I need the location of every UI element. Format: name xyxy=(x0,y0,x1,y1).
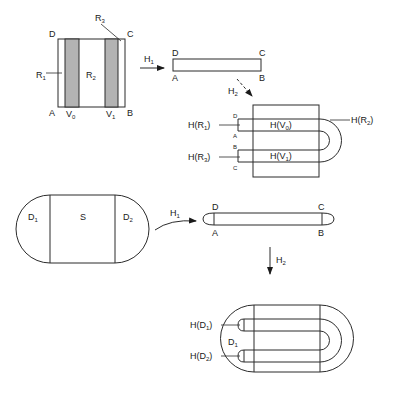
strip-v0 xyxy=(65,39,79,107)
label-h-d1: H(D1) xyxy=(190,320,212,331)
horseshoe-image-stadium: H(D1) H(D2) D1 xyxy=(190,305,354,372)
label-h-v0: H(V0) xyxy=(270,120,292,131)
corner-label-b: B xyxy=(318,228,324,238)
strip-label-v1: V1 xyxy=(106,109,116,120)
arrow-label-h2: H2 xyxy=(276,255,287,266)
corner-label-c: C xyxy=(318,202,325,212)
region-label-d1: D1 xyxy=(228,337,239,348)
square-domain: D C A B R1 R2 R3 V0 V1 xyxy=(36,13,134,120)
inner-fold-arc xyxy=(320,131,330,150)
outer-fold-arc xyxy=(320,119,342,162)
bar-outline xyxy=(173,59,261,71)
corner-label-b: B xyxy=(127,108,133,118)
stretched-bar-top: D C A B xyxy=(172,48,266,83)
arrow-label-h1: H1 xyxy=(170,208,181,219)
arrow-diagonal-icon xyxy=(237,79,252,96)
capsule-outline xyxy=(203,213,334,225)
region-label-r1: R1 xyxy=(36,70,47,81)
corner-label-d: D xyxy=(212,202,219,212)
corner-label-c: C xyxy=(127,29,134,39)
r3-leader-line xyxy=(101,24,121,41)
stadium-domain: D1 S D2 xyxy=(16,195,149,263)
arrow-label-h1: H1 xyxy=(144,54,155,65)
corner-label-a: A xyxy=(212,228,218,238)
image-square-outline xyxy=(253,105,319,177)
region-label-s: S xyxy=(80,212,86,222)
corner-label-d: D xyxy=(172,48,179,58)
arrow-h1-bottom: H1 xyxy=(155,208,196,230)
region-label-d1: D1 xyxy=(28,212,39,223)
stretched-capsule: D C A B xyxy=(203,202,334,238)
outer-fold-arc xyxy=(320,319,342,362)
inner-fold-arc xyxy=(320,331,330,350)
corner-mark-b: B xyxy=(233,144,237,150)
corner-label-d: D xyxy=(49,29,56,39)
arrow-curved-icon xyxy=(155,221,196,230)
label-h-r2: H(R2) xyxy=(351,115,373,126)
strip-label-v0: V0 xyxy=(66,109,76,120)
horseshoe-image-square: H(R1) H(R3) H(R2) H(V0) H(V1) D A B C xyxy=(188,105,373,177)
corner-label-a: A xyxy=(49,108,55,118)
corner-label-c: C xyxy=(259,48,266,58)
corner-label-b: B xyxy=(259,73,265,83)
horseshoe-map-diagram: D C A B R1 R2 R3 V0 V1 H1 D C A B H2 xyxy=(0,0,395,397)
strip-v1 xyxy=(105,39,118,107)
region-label-r2: R2 xyxy=(86,70,97,81)
corner-mark-d: D xyxy=(233,113,238,119)
arrow-h2-bottom: H2 xyxy=(270,247,287,274)
region-label-d2: D2 xyxy=(123,212,134,223)
label-h-r1: H(R1) xyxy=(188,120,210,131)
arrow-h2-top: H2 xyxy=(228,79,252,97)
arrow-label-h2: H2 xyxy=(228,86,239,97)
corner-mark-c: C xyxy=(233,165,238,171)
corner-mark-a: A xyxy=(233,133,237,139)
label-h-r3: H(R3) xyxy=(188,152,210,163)
arrow-h1-top: H1 xyxy=(140,54,164,68)
label-h-d2: H(D2) xyxy=(190,351,212,362)
stadium-outline xyxy=(16,195,149,263)
corner-label-a: A xyxy=(172,73,178,83)
label-h-v1: H(V1) xyxy=(270,151,292,162)
region-label-r3: R3 xyxy=(95,13,106,24)
